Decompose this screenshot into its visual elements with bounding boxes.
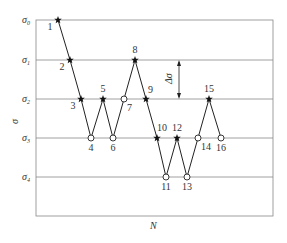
point-label: 4 bbox=[89, 142, 94, 153]
point-label: 2 bbox=[60, 61, 65, 72]
point-label: 9 bbox=[148, 84, 153, 95]
failure-star-icon bbox=[54, 16, 62, 23]
delta-sigma-label: Δσ bbox=[163, 72, 174, 85]
stress-level-label: σ0 bbox=[22, 14, 30, 26]
point-label: 16 bbox=[216, 142, 226, 153]
failure-star-icon bbox=[66, 56, 74, 63]
point-label: 15 bbox=[204, 83, 214, 94]
plot-frame bbox=[36, 20, 273, 216]
runout-circle-icon bbox=[184, 174, 190, 180]
stress-level-lines bbox=[36, 60, 273, 177]
stress-level-label: σ4 bbox=[22, 171, 30, 183]
point-label: 11 bbox=[161, 181, 171, 192]
data-point-markers bbox=[54, 16, 224, 180]
point-label: 1 bbox=[48, 21, 53, 32]
staircase-diagram: σ0σ1σ2σ3σ4 12345678910111213141516 Δσ σ … bbox=[0, 0, 287, 243]
point-label: 8 bbox=[133, 44, 138, 55]
point-label: 14 bbox=[201, 141, 211, 152]
failure-star-icon bbox=[173, 134, 181, 141]
failure-star-icon bbox=[99, 95, 107, 102]
point-label: 12 bbox=[172, 122, 182, 133]
delta-sigma-arrow bbox=[177, 60, 181, 99]
stress-level-label: σ1 bbox=[22, 54, 30, 66]
stress-level-label: σ2 bbox=[22, 93, 30, 105]
point-label: 13 bbox=[182, 181, 192, 192]
point-label: 10 bbox=[157, 122, 167, 133]
point-label: 6 bbox=[111, 142, 116, 153]
failure-star-icon bbox=[205, 95, 213, 102]
point-label: 3 bbox=[71, 100, 76, 111]
point-label: 5 bbox=[101, 83, 106, 94]
arrow-down-icon bbox=[177, 93, 181, 99]
stress-level-label: σ3 bbox=[22, 132, 30, 144]
x-axis-label: N bbox=[149, 220, 158, 231]
stress-level-labels: σ0σ1σ2σ3σ4 bbox=[22, 14, 30, 183]
runout-circle-icon bbox=[88, 135, 94, 141]
runout-circle-icon bbox=[110, 135, 116, 141]
point-label: 7 bbox=[127, 102, 132, 113]
failure-star-icon bbox=[131, 56, 139, 63]
arrow-up-icon bbox=[177, 60, 181, 66]
runout-circle-icon bbox=[218, 135, 224, 141]
point-number-labels: 12345678910111213141516 bbox=[48, 21, 227, 192]
y-axis-label: σ bbox=[9, 118, 20, 124]
failure-star-icon bbox=[77, 95, 85, 102]
runout-circle-icon bbox=[163, 174, 169, 180]
failure-star-icon bbox=[142, 95, 150, 102]
